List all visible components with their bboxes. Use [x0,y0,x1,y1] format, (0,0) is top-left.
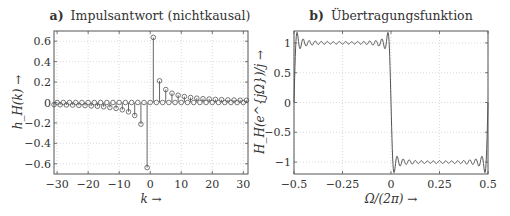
x-tick-label: 30 [236,178,250,191]
x-tick-label: 20 [205,178,219,191]
y-tick-label: −0.5 [264,126,291,139]
y-axis-label-b: H_H(e^{jΩ})/j → [253,50,267,155]
y-tick-label: 0.2 [34,76,52,89]
x-tick-label: −10 [108,178,131,191]
x-tick-label: 0 [388,178,395,191]
x-axis-label-b: Ω/(2π) → [364,192,418,206]
chart-title-a: a) Impulsantwort (nichtkausal) [50,8,251,23]
y-tick-label: −0.2 [24,117,51,130]
x-tick-label: 10 [174,178,188,191]
panel-transfer-function: b) Übertragungsfunktion −0.5−0.2500.250.… [253,7,497,206]
x-tick-label: −0.5 [281,178,308,191]
stem-marker [222,100,227,105]
y-tick-label: 0 [284,97,291,110]
x-axis-label-a: k → [140,192,161,206]
y-tick-label: −1 [275,156,291,169]
y-tick-label: −0.4 [24,137,51,150]
y-tick-label: −0.6 [24,158,51,171]
x-tick-label: −30 [45,178,68,191]
ticks-a: −30−20−1001020300.60.40.20−0.2−0.4−0.6 [24,31,250,191]
y-tick-label: 0.5 [274,67,292,80]
x-tick-label: 0.25 [427,178,452,191]
y-tick-label: 1 [284,37,291,50]
chart-title-b: b) Übertragungsfunktion [309,7,472,23]
grid-a [54,31,248,174]
x-tick-label: −0.25 [326,178,360,191]
y-tick-label: 0.6 [34,35,52,48]
x-tick-label: −20 [77,178,100,191]
x-tick-label: 0 [147,178,154,191]
stem-marker [136,100,141,105]
y-axis-label-a: h_H(k) → [11,75,25,130]
ticks-b: −0.5−0.2500.250.510.50−0.5−1 [264,31,496,191]
panel-impulse-response: a) Impulsantwort (nichtkausal) −30−20−10… [11,8,250,206]
x-tick-label: 0.5 [479,178,497,191]
y-tick-label: 0 [44,97,51,110]
y-tick-label: 0.4 [34,56,52,69]
stem-marker [173,100,178,105]
stem-marker [229,100,234,105]
figure: a) Impulsantwort (nichtkausal) −30−20−10… [0,0,510,216]
